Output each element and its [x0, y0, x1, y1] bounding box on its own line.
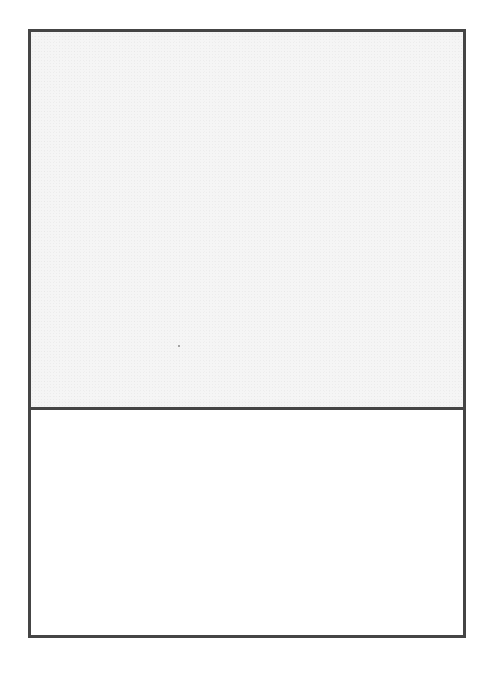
- bottom-panel: [31, 410, 463, 635]
- outer-frame: [28, 29, 466, 638]
- top-panel: [31, 32, 463, 410]
- scan-speck: [178, 345, 180, 347]
- page: [0, 0, 496, 674]
